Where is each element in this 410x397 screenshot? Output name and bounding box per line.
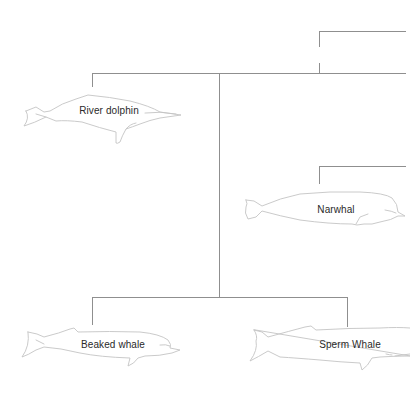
branch-main-horizontal bbox=[93, 74, 407, 88]
branch-bottom-clade bbox=[93, 298, 348, 328]
taxon-label-sperm-whale: Sperm Whale bbox=[319, 339, 381, 351]
taxon-label-narwhal: Narwhal bbox=[317, 204, 354, 216]
branch-narwhal bbox=[320, 167, 407, 185]
taxon-label-beaked-whale: Beaked whale bbox=[81, 339, 145, 351]
river-dolphin-illustration bbox=[24, 95, 181, 143]
tree-branches bbox=[93, 32, 407, 328]
branch-top-clade bbox=[320, 32, 407, 48]
phylogeny-diagram bbox=[0, 0, 410, 397]
taxon-label-river-dolphin: River dolphin bbox=[79, 105, 139, 117]
